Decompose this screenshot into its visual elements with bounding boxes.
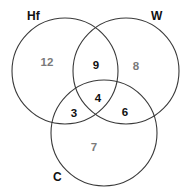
region-value-w-only: 8 [133,60,140,72]
set-circle-c [51,80,157,186]
region-value-hf-w: 9 [93,59,99,71]
region-value-w-c: 6 [122,106,128,118]
region-value-hf-c: 3 [71,107,77,119]
set-label-c: C [53,170,62,184]
set-label-w: W [151,9,163,23]
set-label-hf: Hf [27,9,41,23]
region-value-hf-only: 12 [41,56,54,68]
venn-diagram: Hf W C 12 8 7 9 3 6 4 [0,0,185,195]
set-circle-hf [12,18,118,124]
region-value-hf-w-c: 4 [95,92,102,104]
region-value-c-only: 7 [91,141,97,153]
